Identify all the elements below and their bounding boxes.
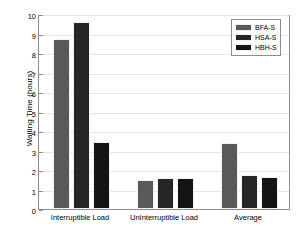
legend-item[interactable]: HSA-S (235, 33, 277, 42)
x-axis-tick-label: Interruptible Load (51, 213, 109, 222)
legend-label: HSA-S (255, 34, 276, 41)
y-axis-tick-label: 9 (32, 31, 36, 40)
y-axis-tick-mark (39, 74, 43, 75)
bar-bfa-s-average (221, 143, 238, 209)
bar-chart-figure: Waiting Time (hours) 012345678910 Interr… (0, 0, 302, 249)
y-axis-tick-mark (39, 93, 43, 94)
y-axis-tick-mark (39, 113, 43, 114)
y-axis-tick-mark (39, 152, 43, 153)
y-axis-tick-label: 2 (32, 168, 36, 177)
x-axis-tick-label: Average (234, 213, 262, 222)
legend-swatch-icon (235, 24, 252, 31)
y-axis-tick-mark (39, 35, 43, 36)
legend-item[interactable]: BFA-S (235, 23, 277, 32)
y-axis-tick-mark (39, 15, 43, 16)
bar-bfa-s-uninterruptible-load (137, 180, 154, 209)
y-axis-tick-label: 8 (32, 51, 36, 60)
y-axis-tick-label: 7 (32, 70, 36, 79)
y-axis-tick-label: 1 (32, 187, 36, 196)
legend-swatch-icon (235, 44, 252, 51)
y-axis-tick-label: 10 (28, 12, 36, 21)
y-axis-tick-mark (39, 54, 43, 55)
y-axis-tick-label: 4 (32, 129, 36, 138)
y-axis-tick-mark (39, 191, 43, 192)
bar-hbh-s-average (261, 177, 278, 209)
bar-hsa-s-uninterruptible-load (157, 178, 174, 209)
bar-hsa-s-average (241, 175, 258, 209)
legend-item[interactable]: HBH-S (235, 43, 277, 52)
y-axis-tick-mark (39, 171, 43, 172)
x-axis-tick-label: UnInterruptible Load (130, 213, 198, 222)
y-axis-tick-mark (39, 132, 43, 133)
bar-bfa-s-interruptible-load (53, 39, 70, 209)
legend-swatch-icon (235, 34, 252, 41)
bar-hbh-s-interruptible-load (93, 142, 110, 209)
y-axis-tick-label: 5 (32, 109, 36, 118)
legend-label: BFA-S (255, 24, 275, 31)
y-axis-tick-label: 3 (32, 148, 36, 157)
bar-group (53, 16, 110, 209)
y-axis-tick-label: 6 (32, 90, 36, 99)
legend-label: HBH-S (255, 44, 277, 51)
bar-hbh-s-uninterruptible-load (177, 178, 194, 209)
y-axis-tick-mark (39, 210, 43, 211)
y-axis-tick-label: 0 (32, 207, 36, 216)
bar-group (137, 16, 194, 209)
bar-hsa-s-interruptible-load (73, 22, 90, 209)
chart-legend: BFA-SHSA-SHBH-S (231, 19, 281, 56)
